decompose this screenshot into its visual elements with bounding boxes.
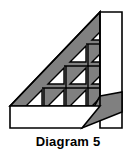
diagram-figure: Diagram 5 [0, 0, 136, 161]
diagram-illustration [0, 0, 136, 133]
diagram-caption: Diagram 5 [0, 134, 136, 149]
